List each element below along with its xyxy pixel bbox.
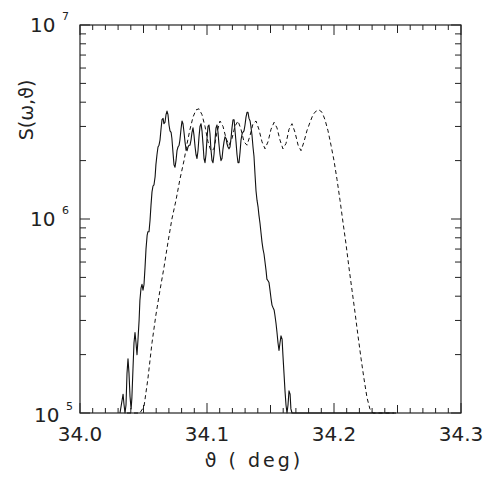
y-tick-base: 10 <box>34 403 59 427</box>
chart: 10 7 10 6 10 5 34.0 34.1 34.2 34.3 ϑ ( d… <box>0 0 493 483</box>
y-tick-exponent: 7 <box>62 10 69 23</box>
y-tick-base: 10 <box>30 13 55 37</box>
x-axis-title: ϑ ( deg) <box>205 449 303 471</box>
y-tick-exponent: 5 <box>66 400 73 413</box>
x-tick-label: 34.1 <box>185 422 230 446</box>
y-axis-title: S(ω,ϑ) <box>15 80 37 141</box>
y-tick-label-1e7: 10 7 <box>30 10 69 37</box>
series-layer <box>120 109 396 413</box>
x-tick-label: 34.2 <box>312 422 357 446</box>
y-tick-label-1e6: 10 6 <box>30 204 69 231</box>
dashed-series-line <box>127 109 394 413</box>
y-tick-base: 10 <box>30 207 55 231</box>
y-tick-exponent: 6 <box>62 204 69 217</box>
x-tick-label: 34.0 <box>58 422 103 446</box>
solid-series-line <box>120 111 396 413</box>
x-tick-label: 34.3 <box>439 422 484 446</box>
